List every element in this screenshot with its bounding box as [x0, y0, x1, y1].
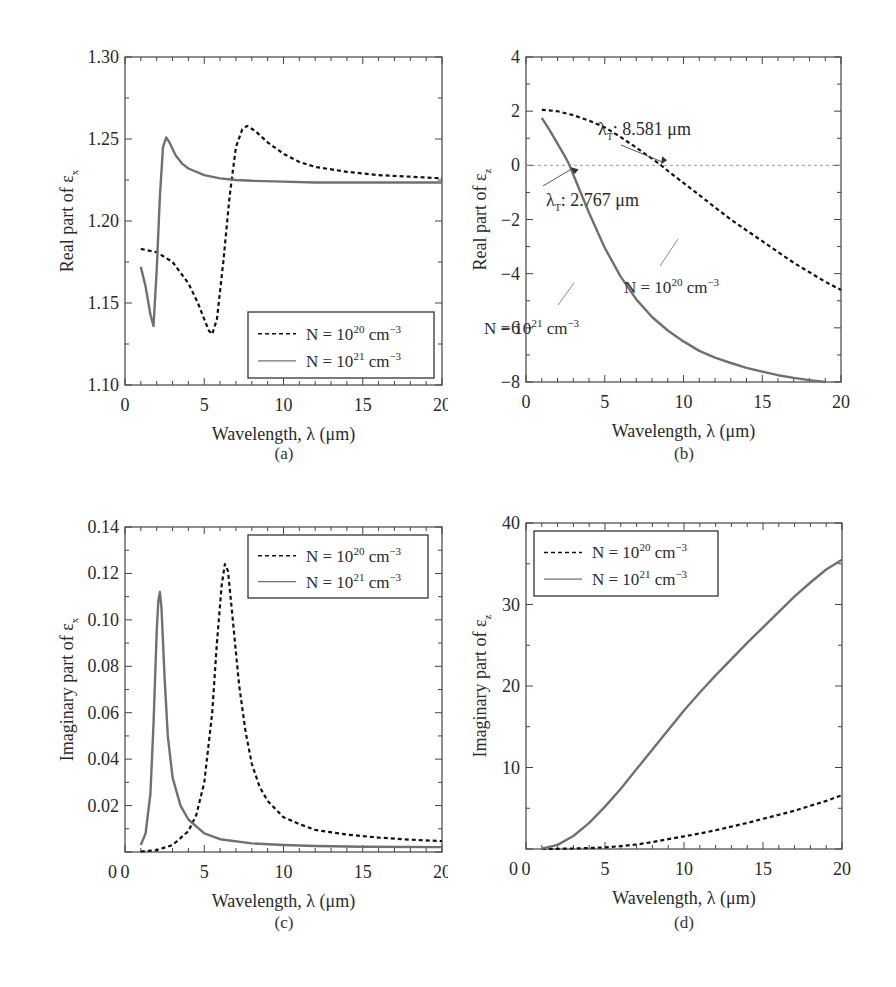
x-tick-label: 10 — [275, 862, 293, 882]
chart-imag-eps-z: 05101520102030400Wavelength, λ (μm)Imagi… — [448, 470, 896, 940]
x-tick-label: 20 — [833, 859, 851, 879]
legend: N = 1020 cm−3N = 1021 cm−3 — [534, 531, 718, 596]
x-tick-label: 5 — [200, 395, 209, 415]
legend: N = 1020 cm−3N = 1021 cm−3 — [248, 535, 428, 598]
y-axis-label: Real part of εx — [57, 169, 80, 272]
series-n21-solid-line — [141, 137, 442, 326]
x-tick-label: 10 — [275, 395, 293, 415]
leader-line — [558, 283, 574, 305]
caption-a: (a) — [264, 444, 304, 464]
x-tick-label: 15 — [354, 395, 372, 415]
y-tick-label: 0 — [511, 155, 520, 175]
y-tick-label: 10 — [502, 758, 520, 778]
y-tick-label: 0.04 — [88, 749, 120, 769]
y-tick-label: −4 — [501, 264, 520, 284]
series-n20-dashed-line — [542, 795, 842, 849]
y-axis-label: Real part of εz — [470, 168, 493, 270]
panel-d: 05101520102030400Wavelength, λ (μm)Imagi… — [448, 470, 896, 940]
y-tick-label: 0.02 — [88, 796, 120, 816]
y-tick-label: 0.06 — [88, 703, 120, 723]
x-axis-label: Wavelength, λ (μm) — [212, 424, 355, 445]
chart-real-eps-z: 05101520−8−6−4−2024Wavelength, λ (μm)Rea… — [448, 0, 896, 470]
x-tick-label: 0 — [522, 859, 531, 879]
annotation-lambda-t-8581: λT: 8.581 μm — [598, 119, 691, 142]
y-tick-label: 0.12 — [88, 563, 120, 583]
x-tick-label: 15 — [354, 862, 372, 882]
panel-c: 051015200.020.040.060.080.100.120.140Wav… — [0, 470, 448, 940]
x-tick-label: 15 — [754, 859, 772, 879]
chart-imag-eps-x: 051015200.020.040.060.080.100.120.140Wav… — [0, 470, 448, 940]
y-tick-label: 2 — [511, 101, 520, 121]
arrowhead-icon — [661, 156, 667, 164]
x-tick-label: 5 — [601, 859, 610, 879]
y-tick-label: 1.15 — [88, 293, 120, 313]
legend: N = 1020 cm−3N = 1021 cm−3 — [248, 312, 434, 378]
y-tick-label: 1.30 — [88, 47, 120, 67]
series-label-n20-text: N = 1020 cm−3 — [624, 276, 720, 297]
y-tick-label: 0.08 — [88, 656, 120, 676]
series-label-n21: N = 1021 cm−3 — [484, 317, 580, 338]
leader-line — [660, 239, 678, 266]
x-tick-label: 15 — [753, 392, 771, 412]
y-tick-label: 1.20 — [88, 211, 120, 231]
series-n20-dashed-line — [141, 564, 442, 851]
y-tick-label: 0.14 — [88, 517, 120, 537]
series-n21-solid-line — [542, 118, 826, 382]
y-axis-label: Imaginary part of εz — [470, 614, 493, 757]
x-tick-label: 5 — [600, 392, 609, 412]
panel-b: 05101520−8−6−4−2024Wavelength, λ (μm)Rea… — [448, 0, 896, 470]
series-n20-dashed-line — [141, 126, 442, 334]
x-tick-label: 0 — [522, 392, 531, 412]
y-tick-label: 40 — [502, 513, 520, 533]
series-n21-solid-line — [141, 592, 442, 847]
y-tick-label: 30 — [502, 595, 520, 615]
origin-label: 0 — [108, 862, 117, 882]
series-label-n21-text: N = 1021 cm−3 — [484, 317, 580, 338]
annotation-arrow — [543, 168, 573, 186]
y-tick-label: 0.10 — [88, 610, 120, 630]
x-tick-label: 0 — [121, 395, 130, 415]
caption-b: (b) — [664, 444, 704, 464]
x-tick-label: 20 — [433, 862, 448, 882]
x-tick-label: 10 — [675, 859, 693, 879]
series-label-n20: N = 1020 cm−3 — [624, 276, 720, 297]
caption-d: (d) — [664, 913, 704, 933]
chart-real-eps-x: 051015201.101.151.201.251.30Wavelength, … — [0, 0, 448, 470]
y-tick-label: 1.10 — [88, 375, 120, 395]
x-axis-label: Wavelength, λ (μm) — [612, 421, 755, 442]
y-tick-label: 1.25 — [88, 129, 120, 149]
y-tick-label: 4 — [511, 47, 520, 67]
x-tick-label: 20 — [433, 395, 448, 415]
plot-frame — [526, 57, 841, 382]
x-tick-label: 20 — [832, 392, 850, 412]
panel-a: 051015201.101.151.201.251.30Wavelength, … — [0, 0, 448, 470]
y-tick-label: −2 — [501, 210, 520, 230]
x-tick-label: 0 — [121, 862, 130, 882]
series-n21-solid-line — [542, 560, 842, 849]
y-axis-label: Imaginary part of εx — [57, 617, 80, 761]
annotation-arrow — [621, 145, 663, 162]
caption-c: (c) — [264, 913, 304, 933]
x-tick-label: 10 — [675, 392, 693, 412]
annotation-lambda-t-2767: λT: 2.767 μm — [546, 190, 639, 213]
x-tick-label: 5 — [200, 862, 209, 882]
x-axis-label: Wavelength, λ (μm) — [212, 891, 355, 912]
x-axis-label: Wavelength, λ (μm) — [612, 888, 755, 909]
origin-label: 0 — [509, 859, 518, 879]
y-tick-label: 20 — [502, 676, 520, 696]
y-tick-label: −8 — [501, 372, 520, 392]
